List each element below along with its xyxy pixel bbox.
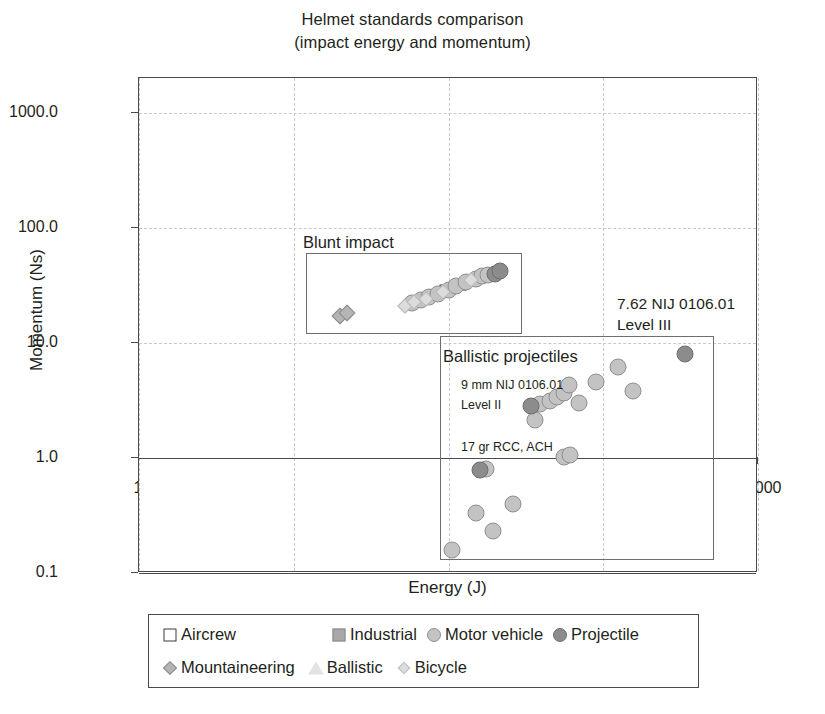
legend-item-projectile[interactable]: Projectile (549, 625, 639, 644)
gridline-y-1000 (139, 113, 756, 114)
chart-title-line2: (impact energy and momentum) (0, 31, 825, 54)
x-axis-label: Energy (J) (138, 578, 757, 598)
chart-page: Helmet standards comparison (impact ener… (0, 0, 825, 714)
y-tick-mark-100 (131, 227, 138, 228)
region-label-blunt-impact: Blunt impact (303, 233, 394, 252)
y-tick-mark-1 (131, 457, 138, 458)
y-tick-label-100: 100.0 (0, 218, 58, 236)
open-square-icon (159, 626, 181, 644)
gridline-y-0.1 (139, 573, 756, 574)
light-circle-icon (423, 626, 445, 644)
gridline-x-10 (294, 78, 295, 571)
data-point-projectile (491, 263, 508, 280)
legend-item-bicycle[interactable]: Bicycle (393, 658, 467, 677)
data-point-motor-vehicle (467, 505, 484, 522)
chart-title: Helmet standards comparison (impact ener… (0, 8, 825, 54)
gray-circle-icon (549, 626, 571, 644)
data-point-motor-vehicle (588, 373, 605, 390)
gridline-x-1 (139, 78, 140, 571)
data-point-motor-vehicle (571, 395, 588, 412)
chart-title-line1: Helmet standards comparison (0, 8, 825, 31)
light-diamond-icon (393, 659, 415, 677)
legend-item-industrial[interactable]: Industrial (328, 625, 417, 644)
annotation-rcc-ach: 17 gr RCC, ACH (461, 439, 553, 455)
data-point-motor-vehicle (610, 358, 627, 375)
annotation-level2-line2: Level II (461, 397, 501, 413)
legend-row-1: AircrewIndustrialMotor vehicleProjectile (149, 618, 698, 651)
data-point-projectile (472, 462, 489, 479)
legend-item-label: Ballistic (327, 658, 383, 677)
open-triangle-icon (305, 659, 327, 677)
data-point-motor-vehicle (624, 383, 641, 400)
legend-item-label: Bicycle (415, 658, 467, 677)
y-tick-mark-10 (131, 342, 138, 343)
legend-item-label: Industrial (350, 625, 417, 644)
filled-square-icon (328, 626, 350, 644)
chart-legend: AircrewIndustrialMotor vehicleProjectile… (148, 614, 699, 688)
legend-row-2: MountaineeringBallisticBicycle (149, 651, 698, 684)
region-label-ballistic-projectiles: Ballistic projectiles (443, 347, 578, 366)
legend-item-mountaineering[interactable]: Mountaineering (159, 658, 295, 677)
y-axis-label: Momentum (Ns) (27, 210, 47, 410)
legend-item-label: Motor vehicle (445, 625, 543, 644)
data-point-projectile (677, 345, 694, 362)
legend-item-motor-vehicle[interactable]: Motor vehicle (423, 625, 543, 644)
legend-item-label: Aircrew (181, 625, 236, 644)
annotation-level2-line1: 9 mm NIJ 0106.01 (461, 377, 563, 393)
y-tick-label-1: 1.0 (0, 448, 58, 466)
y-tick-label-0.1: 0.1 (0, 563, 58, 581)
data-point-motor-vehicle (562, 447, 579, 464)
y-tick-label-1000: 1000.0 (0, 103, 58, 121)
data-point-projectile (522, 397, 539, 414)
legend-item-label: Mountaineering (181, 658, 295, 677)
legend-item-label: Projectile (571, 625, 639, 644)
y-tick-mark-1000 (131, 112, 138, 113)
annotation-level3-line2: Level III (617, 314, 671, 335)
data-point-motor-vehicle (485, 523, 502, 540)
legend-item-ballistic[interactable]: Ballistic (305, 658, 383, 677)
plot-area: Blunt impact Ballistic projectiles 7.62 … (138, 77, 757, 572)
gridline-y-100 (139, 228, 756, 229)
annotation-level3-line1: 7.62 NIJ 0106.01 (617, 293, 735, 314)
legend-item-aircrew[interactable]: Aircrew (159, 625, 236, 644)
gridline-x-10000 (758, 78, 759, 571)
y-tick-label-10: 10.0 (0, 333, 58, 351)
y-tick-mark-0.1 (131, 572, 138, 573)
gray-diamond-icon (159, 659, 181, 677)
data-point-motor-vehicle (504, 495, 521, 512)
data-point-motor-vehicle (443, 541, 460, 558)
